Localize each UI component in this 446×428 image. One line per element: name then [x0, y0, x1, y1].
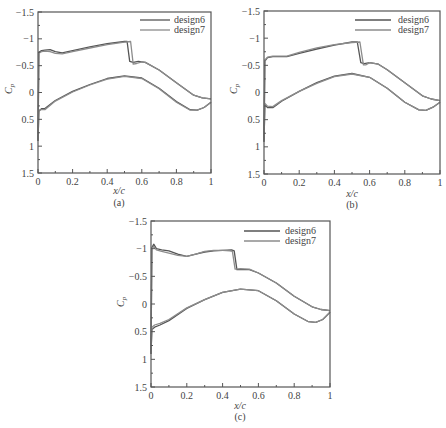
- panel-caption: (a): [113, 197, 124, 209]
- plot-area: [264, 42, 440, 141]
- panel-caption: (b): [346, 199, 358, 211]
- y-tick-label: 0: [142, 299, 147, 310]
- curve-design7-upper-surface: [38, 42, 211, 141]
- y-tick-label: −1.5: [129, 216, 147, 227]
- curve-design7-lower-surface: [38, 76, 211, 140]
- y-tick-label: −1.5: [242, 6, 260, 17]
- legend-label-design7: design7: [285, 235, 316, 246]
- chart-svg-b: 00.20.40.60.81−1.5−1−0.500.511.5 design6…: [223, 0, 446, 214]
- axes-frame: [264, 11, 440, 174]
- x-tick-label: 0.8: [288, 390, 301, 401]
- y-tick-label: 1.5: [248, 169, 261, 180]
- x-tick-label: 0.8: [170, 176, 183, 187]
- curve-design6-lower-surface: [38, 76, 211, 141]
- y-axis-label: Cp: [115, 296, 128, 307]
- curve-design6-upper-surface: [38, 42, 211, 141]
- y-tick-label: 1.5: [135, 382, 148, 393]
- x-tick-label: 0.2: [181, 390, 194, 401]
- chart-panel-b: 00.20.40.60.81−1.5−1−0.500.511.5 design6…: [223, 0, 446, 214]
- x-tick-label: 0: [36, 176, 41, 187]
- x-tick-label: 0: [262, 177, 267, 188]
- x-axis-label: x/c: [112, 185, 125, 196]
- y-tick-label: 1: [255, 141, 260, 152]
- y-tick-label: 1: [29, 141, 34, 152]
- y-tick-label: 1.5: [22, 168, 35, 179]
- x-tick-label: 1: [209, 176, 214, 187]
- y-tick-label: 0.5: [135, 326, 148, 337]
- x-tick-label: 1: [328, 390, 333, 401]
- curve-design7-lower-surface: [151, 289, 330, 354]
- chart-svg-c: 00.20.40.60.81−1.5−1−0.500.511.5 design6…: [110, 210, 346, 428]
- y-axis-label: Cp: [228, 83, 241, 94]
- x-tick-label: 1: [438, 177, 443, 188]
- legend: design6 design7: [244, 225, 316, 246]
- x-tick-label: 0.6: [363, 177, 376, 188]
- y-tick-label: −0.5: [16, 60, 34, 71]
- x-axis-label: x/c: [233, 400, 246, 411]
- y-tick-label: −1: [136, 243, 147, 254]
- y-tick-label: 1: [142, 354, 147, 365]
- x-tick-label: 0.4: [216, 390, 229, 401]
- axes-frame: [38, 12, 211, 173]
- curve-design6-upper-surface: [264, 42, 440, 141]
- y-tick-label: 0.5: [22, 114, 35, 125]
- x-tick-label: 0.8: [399, 177, 412, 188]
- x-tick-label: 0.2: [66, 176, 79, 187]
- x-tick-label: 0.4: [328, 177, 341, 188]
- y-tick-label: −0.5: [129, 271, 147, 282]
- y-tick-label: 0.5: [248, 114, 261, 125]
- y-axis-label: Cp: [3, 83, 16, 94]
- y-tick-label: −1.5: [16, 7, 34, 18]
- y-tick-label: 0: [29, 87, 34, 98]
- chart-panel-c: 00.20.40.60.81−1.5−1−0.500.511.5 design6…: [110, 210, 346, 428]
- x-axis-label: x/c: [345, 188, 358, 199]
- x-tick-label: 0.2: [293, 177, 306, 188]
- plot-area: [151, 244, 330, 354]
- panel-caption: (c): [234, 411, 245, 423]
- plot-area: [38, 42, 211, 141]
- y-tick-label: −1: [23, 33, 34, 44]
- x-tick-label: 0: [149, 390, 154, 401]
- curve-design7-upper-surface: [151, 247, 330, 354]
- x-tick-label: 0.6: [136, 176, 149, 187]
- curve-design6-lower-surface: [151, 289, 330, 354]
- y-tick-label: −1: [249, 33, 260, 44]
- legend-label-design7: design7: [174, 24, 205, 35]
- x-tick-label: 0.6: [252, 390, 265, 401]
- x-tick-label: 0.4: [101, 176, 114, 187]
- curve-design7-lower-surface: [264, 74, 440, 141]
- legend-label-design7: design7: [398, 24, 429, 35]
- curve-design7-upper-surface: [264, 42, 440, 141]
- legend: design6 design7: [355, 14, 429, 35]
- chart-svg-a: 00.20.40.60.81−1.5−1−0.500.511.5 design6…: [0, 0, 223, 214]
- legend: design6 design7: [140, 14, 205, 35]
- y-tick-label: −0.5: [242, 60, 260, 71]
- y-tick-label: 0: [255, 87, 260, 98]
- curve-design6-upper-surface: [151, 244, 330, 354]
- chart-panel-a: 00.20.40.60.81−1.5−1−0.500.511.5 design6…: [0, 0, 223, 214]
